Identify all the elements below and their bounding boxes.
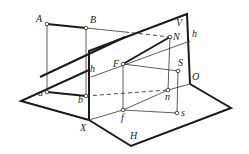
label-h-lower: h <box>90 63 95 74</box>
projector-Ss <box>177 71 178 113</box>
point-S <box>176 69 180 73</box>
label-s: s <box>181 107 185 118</box>
line-B-to-V <box>86 28 125 32</box>
label-N: N <box>172 31 181 42</box>
line-f-s <box>123 110 177 113</box>
label-X: X <box>79 122 87 133</box>
label-n: n <box>165 91 170 102</box>
projector-Nn <box>168 37 170 90</box>
label-H: H <box>129 130 138 141</box>
point-s <box>175 111 179 115</box>
label-V: V <box>176 17 184 28</box>
label-h-upper: h <box>192 28 197 39</box>
point-N <box>168 35 172 39</box>
line-f-n <box>123 84 190 110</box>
point-B <box>84 26 88 30</box>
label-S: S <box>178 57 183 68</box>
v-plane-diagonal <box>40 37 125 77</box>
line-FS <box>123 64 178 71</box>
label-f: f <box>121 112 125 123</box>
label-b: b <box>78 94 83 105</box>
projection-diagram: A B V N h F h S O a b n f s X H <box>0 0 249 154</box>
point-A <box>45 22 49 26</box>
label-F: F <box>112 58 120 69</box>
point-b <box>84 94 88 98</box>
label-B: B <box>90 14 96 25</box>
line-AB <box>47 24 86 28</box>
label-O: O <box>192 71 199 82</box>
line-X-f <box>89 110 123 120</box>
point-F <box>121 62 125 66</box>
label-A: A <box>35 13 43 24</box>
point-a <box>45 90 49 94</box>
label-a: a <box>38 87 43 98</box>
